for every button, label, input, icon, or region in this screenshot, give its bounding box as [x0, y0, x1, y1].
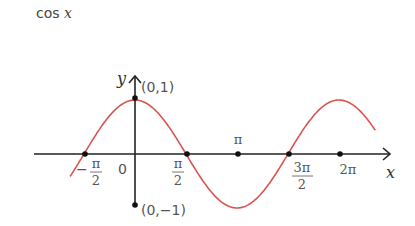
- neg-half-pi-den: 2: [92, 173, 100, 188]
- origin-label: 0: [118, 161, 127, 177]
- point-pi: [235, 151, 241, 157]
- point-min: [132, 202, 138, 208]
- point-max: [132, 95, 138, 101]
- neg-half-pi-num: π: [92, 156, 101, 171]
- three-half-pi-num: 3π: [294, 160, 311, 175]
- x-axis-label: x: [386, 163, 395, 182]
- point-bottom-label: (0,−1): [141, 202, 186, 218]
- point-three-half-pi: [286, 151, 292, 157]
- point-neg-half-pi: [82, 151, 88, 157]
- neg-sign: −: [76, 161, 88, 177]
- half-pi-den: 2: [174, 173, 182, 188]
- cosine-plot: y x (0,1) (0,−1) 0 − π 2 π 2 π 3π 2 2π: [0, 0, 415, 226]
- pi-label: π: [234, 132, 243, 147]
- point-two-pi: [337, 151, 343, 157]
- point-top-label: (0,1): [141, 79, 174, 95]
- half-pi-num: π: [174, 156, 183, 171]
- three-half-pi-den: 2: [298, 177, 306, 192]
- two-pi-label: 2π: [340, 162, 357, 177]
- point-half-pi: [184, 151, 190, 157]
- y-axis-label: y: [116, 69, 127, 88]
